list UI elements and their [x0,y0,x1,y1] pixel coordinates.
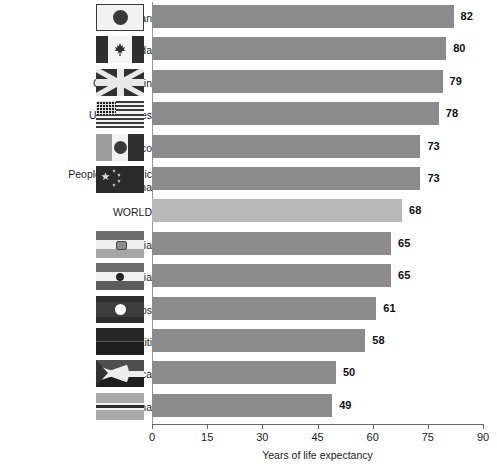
x-tick [207,424,208,429]
bar [152,199,402,222]
laos-flag [96,296,144,323]
canada-flag [96,36,144,63]
haiti-flag [96,328,144,355]
south-africa-flag [96,360,144,387]
x-tick-label: 15 [187,431,227,443]
bar [152,394,332,417]
bar-value-label: 73 [427,167,439,190]
x-tick-label: 90 [463,431,497,443]
x-tick [428,424,429,429]
bolivia-flag [96,231,144,258]
bar [152,264,391,287]
bar [152,5,454,28]
mexico-flag [96,134,144,161]
bar-value-label: 58 [372,329,384,352]
bar [152,329,365,352]
plot-area: 82807978737368656561585049 [152,0,497,424]
x-tick-label: 75 [408,431,448,443]
x-tick [373,424,374,429]
united-states-flag [96,101,144,128]
x-tick [318,424,319,429]
x-tick-label: 0 [132,431,172,443]
bar [152,37,446,60]
japan-flag [96,4,144,31]
bar-value-label: 79 [450,70,462,93]
bar [152,167,420,190]
bar-value-label: 82 [461,5,473,28]
bar-value-label: 65 [398,232,410,255]
x-tick-label: 45 [298,431,338,443]
india-flag [96,263,144,290]
row-label: WORLD [2,206,152,218]
bar [152,135,420,158]
bar-value-label: 73 [427,135,439,158]
x-tick-label: 30 [242,431,282,443]
x-tick-label: 60 [353,431,393,443]
bar-value-label: 61 [383,297,395,320]
bar-value-label: 80 [453,37,465,60]
bar-value-label: 49 [339,394,351,417]
bar [152,102,439,125]
botswana-flag [96,393,144,420]
x-tick [152,424,153,429]
life-expectancy-bar-chart: JapanCanadaGreat BritainUnited StatesMex… [0,0,497,466]
bar [152,297,376,320]
x-axis-title: Years of life expectancy [152,449,483,461]
bar [152,70,443,93]
china-flag [96,166,144,193]
bar-value-label: 78 [446,102,458,125]
great-britain-flag [96,69,144,96]
bar-value-label: 65 [398,264,410,287]
bar [152,232,391,255]
x-tick [483,424,484,429]
bar-value-label: 50 [343,361,355,384]
x-tick [262,424,263,429]
bar [152,361,336,384]
bar-value-label: 68 [409,199,421,222]
